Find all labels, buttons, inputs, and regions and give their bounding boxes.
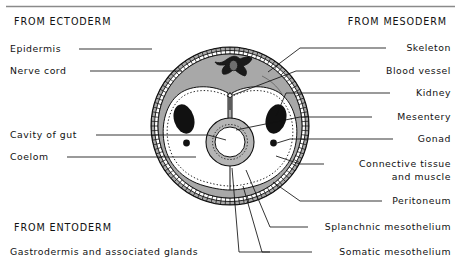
gonad-left xyxy=(183,140,190,147)
label-peritoneum: Peritoneum xyxy=(392,195,451,206)
anatomical-diagram-figure: FROM ECTODERM FROM MESODERM FROM ENTODER… xyxy=(0,0,461,273)
label-nerve-cord: Nerve cord xyxy=(10,65,67,76)
nerve-cord-central-canal xyxy=(229,60,237,70)
label-epidermis: Epidermis xyxy=(10,43,61,54)
cross-section-svg: FROM ECTODERM FROM MESODERM FROM ENTODER… xyxy=(0,0,461,273)
gonad-right xyxy=(270,140,277,147)
label-connective-tissue-line2: and muscle xyxy=(392,171,451,182)
heading-from-mesoderm: FROM MESODERM xyxy=(348,16,447,27)
label-skeleton: Skeleton xyxy=(406,42,451,53)
label-gastrodermis-and-associated-glands: Gastrodermis and associated glands xyxy=(10,246,198,257)
label-cavity-of-gut: Cavity of gut xyxy=(10,129,77,140)
label-splanchnic-mesothelium: Splanchnic mesothelium xyxy=(325,221,451,232)
label-mesentery: Mesentery xyxy=(397,111,451,122)
label-gonad: Gonad xyxy=(418,133,451,144)
label-coelom: Coelom xyxy=(10,151,49,162)
label-connective-tissue: Connective tissue xyxy=(359,158,451,169)
dorsal-blood-vessel xyxy=(228,94,232,98)
heading-from-entoderm: FROM ENTODERM xyxy=(14,222,112,233)
label-blood-vessel: Blood vessel xyxy=(386,65,451,76)
heading-from-ectoderm: FROM ECTODERM xyxy=(14,16,111,27)
gut-cavity-lumen xyxy=(215,127,245,157)
label-kidney: Kidney xyxy=(416,87,451,98)
gut xyxy=(206,118,254,166)
label-somatic-mesothelium: Somatic mesothelium xyxy=(339,246,451,257)
